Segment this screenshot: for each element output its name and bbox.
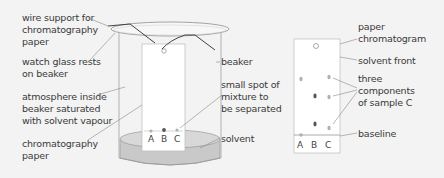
spot-label-c: C <box>174 134 180 144</box>
spot-label-a: A <box>148 134 155 144</box>
chromatography-diagram: A B C A B C <box>0 0 444 178</box>
lane-label-a: A <box>297 140 304 150</box>
lane-label-c: C <box>325 140 331 150</box>
spot-label-b: B <box>161 134 167 144</box>
lane-label-b: B <box>311 140 317 150</box>
chromatography-paper: A B C <box>142 44 185 151</box>
